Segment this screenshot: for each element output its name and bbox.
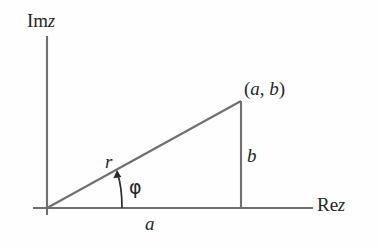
radius-vector-line [47, 101, 241, 208]
point-comma: , [260, 78, 270, 99]
angle-phi-label: φ [129, 178, 142, 197]
point-coordinates-label: (a, b) [244, 79, 285, 98]
imaginary-axis-label-prefix: Im [27, 10, 48, 31]
radius-label: r [105, 152, 112, 171]
angle-arc [118, 174, 123, 209]
side-a-label: a [145, 214, 155, 233]
imaginary-axis-label-variable: z [48, 11, 55, 31]
complex-plane-diagram: Imz Rez (a, b) r φ b a [0, 0, 378, 248]
point-imaginary-part: b [269, 78, 279, 99]
real-axis-label-prefix: Re [317, 194, 338, 215]
real-axis-label-variable: z [338, 195, 345, 215]
point-real-part: a [250, 78, 260, 99]
imaginary-axis-label: Imz [27, 11, 55, 30]
side-b-label: b [247, 146, 257, 165]
point-close-paren: ) [279, 78, 285, 99]
real-axis-label: Rez [317, 195, 345, 214]
